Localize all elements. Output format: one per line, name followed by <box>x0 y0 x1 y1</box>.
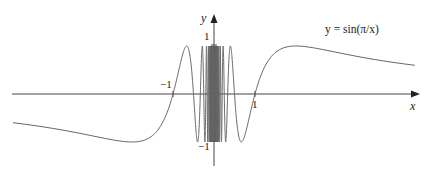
y-tick-label-1: 1 <box>204 30 210 42</box>
function-plot: x y −1 1 1 −1 y = sin(π/x) <box>0 0 432 176</box>
equation-label: y = sin(π/x) <box>325 23 379 36</box>
x-axis-label: x <box>409 99 416 113</box>
x-tick-label-neg1: −1 <box>160 78 172 90</box>
x-tick-label-1: 1 <box>252 98 258 110</box>
x-axis-arrow-icon <box>411 91 420 98</box>
y-axis-arrow-icon <box>211 14 218 23</box>
y-tick-label-neg1: −1 <box>198 140 210 152</box>
y-axis-label: y <box>200 11 207 25</box>
